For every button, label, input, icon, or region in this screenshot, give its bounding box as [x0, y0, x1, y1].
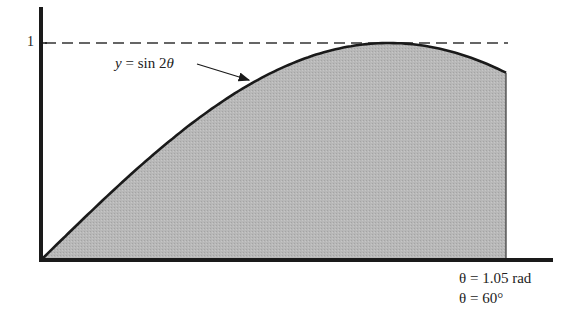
x-end-label-deg: θ = 60°: [459, 290, 503, 307]
curve-label-theta: θ: [166, 55, 173, 71]
curve-label-var: y: [115, 55, 122, 71]
curve-label-eq: = sin 2: [122, 55, 167, 71]
x-end-label-rad: θ = 1.05 rad: [459, 270, 531, 287]
shaded-area: [41, 43, 506, 260]
curve-label: y = sin 2θ: [115, 55, 174, 72]
label-arrow: [197, 64, 249, 80]
y-tick-label: 1: [27, 34, 34, 50]
